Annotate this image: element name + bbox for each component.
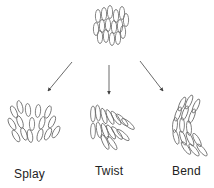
splay-molecules-cluster bbox=[6, 100, 61, 143]
deformation-diagram bbox=[0, 0, 214, 188]
twist-molecules-cluster bbox=[91, 105, 136, 151]
twist-label: Twist bbox=[95, 164, 123, 178]
aligned-molecules-cluster bbox=[93, 6, 128, 46]
arrows bbox=[48, 61, 163, 94]
splay-label: Splay bbox=[14, 167, 45, 181]
bend-molecules-cluster bbox=[172, 94, 209, 157]
arrow-to-bend bbox=[140, 61, 163, 91]
bend-label: Bend bbox=[172, 164, 201, 178]
arrow-to-splay bbox=[48, 62, 72, 91]
